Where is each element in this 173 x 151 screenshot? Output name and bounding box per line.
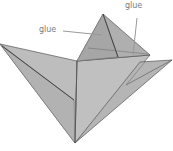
glue-left-label: glue xyxy=(39,25,56,34)
glue-top-right-label: glue xyxy=(125,1,142,10)
origami-diagram: glue glue xyxy=(0,0,173,151)
